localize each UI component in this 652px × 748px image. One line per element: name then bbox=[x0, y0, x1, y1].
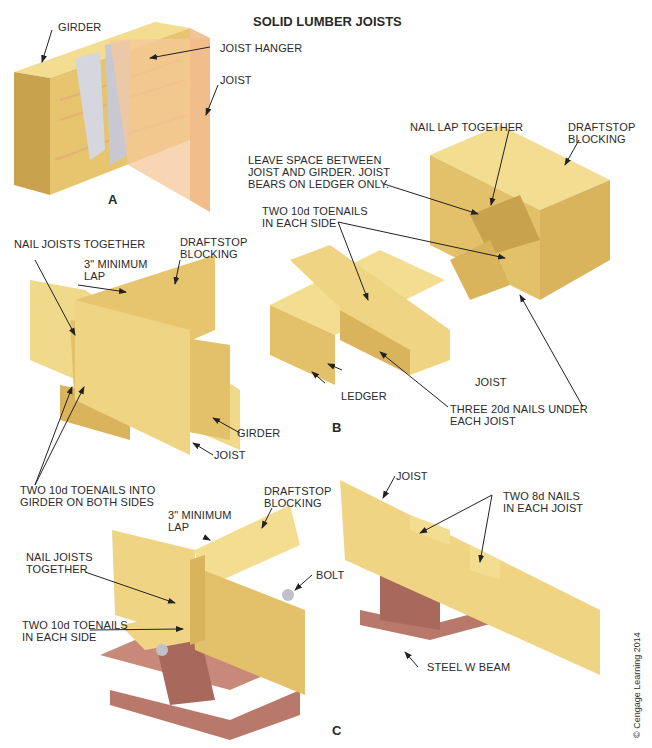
label-c-two-10d-toenails: TWO 10d TOENAILS IN EACH SIDE bbox=[22, 619, 128, 643]
figure-b-left bbox=[270, 245, 450, 385]
label-a-joist-hanger: JOIST HANGER bbox=[220, 42, 302, 54]
label-b-leave-space: LEAVE SPACE BETWEEN JOIST AND GIRDER. JO… bbox=[248, 154, 390, 190]
section-label-c: C bbox=[332, 723, 341, 738]
label-b-joist: JOIST bbox=[475, 376, 507, 388]
figure-c-left bbox=[100, 505, 305, 740]
section-label-a: A bbox=[108, 192, 117, 207]
label-nail-joists-together: NAIL JOISTS TOGETHER bbox=[14, 238, 145, 250]
label-c-two-8d-nails: TWO 8d NAILS IN EACH JOIST bbox=[503, 490, 583, 514]
label-c-joist: JOIST bbox=[396, 470, 428, 482]
label-girder: GIRDER bbox=[237, 427, 280, 439]
label-3in-minimum-lap: 3" MINIMUM LAP bbox=[84, 258, 148, 282]
label-c-draftstop-blocking: DRAFTSTOP BLOCKING bbox=[264, 485, 331, 509]
label-b-three-20d-nails: THREE 20d NAILS UNDER EACH JOIST bbox=[450, 403, 588, 427]
figure-b-right bbox=[430, 125, 610, 300]
label-draftstop-blocking: DRAFTSTOP BLOCKING bbox=[180, 236, 247, 260]
label-a-joist: JOIST bbox=[220, 74, 252, 86]
label-c-3in-minimum-lap: 3" MINIMUM LAP bbox=[168, 509, 232, 533]
label-two-10d-toenails-into-girder: TWO 10d TOENAILS INTO GIRDER ON BOTH SID… bbox=[20, 484, 155, 508]
label-b-nail-lap-together: NAIL LAP TOGETHER bbox=[410, 121, 523, 133]
label-b-draftstop-blocking: DRAFTSTOP BLOCKING bbox=[568, 121, 635, 145]
section-label-b: B bbox=[332, 420, 341, 435]
label-joist: JOIST bbox=[214, 449, 246, 461]
figure-lap-over-girder bbox=[30, 255, 240, 455]
label-b-ledger: LEDGER bbox=[341, 390, 387, 402]
label-b-two-10d-toenails: TWO 10d TOENAILS IN EACH SIDE bbox=[262, 205, 368, 229]
diagram-title: SOLID LUMBER JOISTS bbox=[253, 14, 402, 29]
label-c-bolt: BOLT bbox=[316, 569, 344, 581]
figure-a-joist-hanger bbox=[14, 22, 210, 212]
copyright-credit: © Cengage Learning 2014 bbox=[632, 632, 642, 738]
label-c-nail-joists-together: NAIL JOISTS TOGETHER bbox=[26, 551, 93, 575]
label-a-girder: GIRDER bbox=[58, 21, 101, 33]
label-c-steel-w-beam: STEEL W BEAM bbox=[427, 661, 510, 673]
